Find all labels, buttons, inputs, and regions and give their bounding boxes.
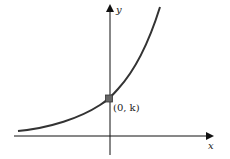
point-label: (0, k): [113, 102, 140, 113]
point-marker: [106, 95, 113, 102]
exponential-graph-figure: (0, k) y x: [0, 0, 230, 159]
x-axis-label: x: [208, 140, 214, 151]
y-axis-label: y: [115, 4, 122, 15]
graph-canvas: (0, k) y x: [0, 0, 230, 159]
